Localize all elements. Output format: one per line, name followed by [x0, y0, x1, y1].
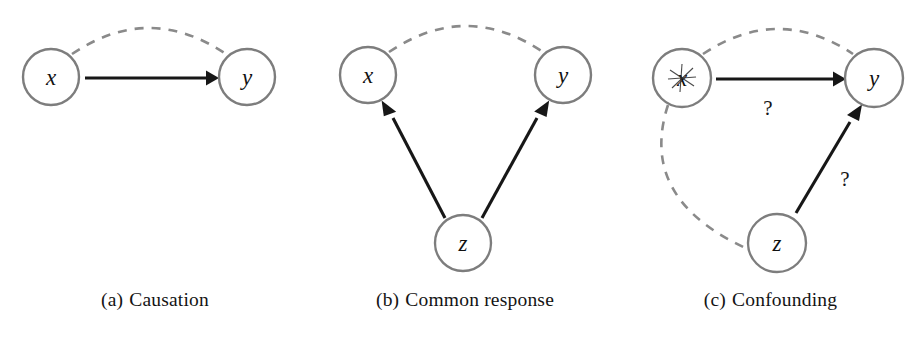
panel-a-diagram: x y [0, 0, 310, 290]
node-y-label: y [867, 66, 880, 91]
arrowhead-icon-x-to-y [206, 71, 219, 86]
figure-container: x y (a)Causation x y z [0, 0, 921, 338]
node-y-label: y [556, 63, 569, 88]
solid-causal-edge-z-to-y [482, 118, 537, 218]
dashed-association-edge-x-z [661, 105, 750, 250]
caption-tag-c: (c) [704, 289, 726, 310]
caption-panel-b: (b)Common response [310, 289, 620, 311]
node-x-label: x [362, 63, 374, 88]
panel-common-response: x y z (b)Common response [310, 0, 620, 338]
caption-text-a: Causation [129, 289, 209, 310]
solid-causal-edge-z-to-x [393, 118, 445, 218]
caption-panel-a: (a)Causation [0, 289, 310, 311]
dashed-association-edge-x-y [389, 26, 543, 52]
node-z-label: z [458, 231, 468, 256]
caption-text-b: Common response [405, 289, 554, 310]
arrowhead-icon-z-to-y [847, 105, 862, 122]
question-mark-label-x-to-y: ? [763, 96, 772, 120]
arrowhead-icon-z-to-y [534, 101, 549, 118]
question-mark-label-z-to-y: ? [840, 167, 849, 191]
caption-text-c: Confounding [732, 289, 837, 310]
caption-panel-c: (c)Confounding [620, 289, 921, 311]
panel-b-diagram: x y z [310, 0, 620, 290]
node-z-label: z [772, 231, 782, 256]
caption-tag-b: (b) [376, 289, 399, 310]
dashed-association-edge-x-y [72, 28, 226, 54]
panel-causation: x y (a)Causation [0, 0, 310, 338]
node-y-label: y [240, 65, 253, 90]
caption-tag-a: (a) [101, 289, 123, 310]
node-x-label: x [45, 65, 57, 90]
panel-confounding: ? ? x y z (c)Confounding [620, 0, 921, 338]
dashed-association-edge-x-y [703, 29, 853, 54]
panel-c-diagram: ? ? x y z [620, 0, 921, 290]
arrowhead-icon-z-to-x [382, 101, 397, 117]
